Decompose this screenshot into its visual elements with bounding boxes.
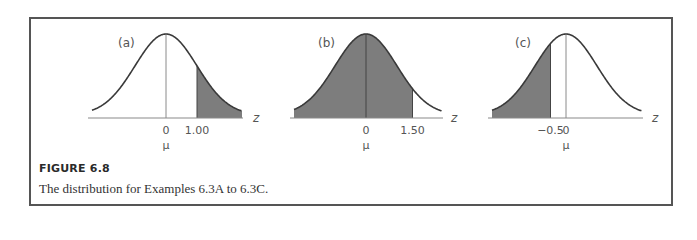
figure-caption: The distribution for Examples 6.3A to 6.… — [39, 181, 268, 197]
tick-label: −0.5 — [537, 124, 564, 137]
tick-label: 0 — [163, 124, 170, 137]
panel-c: z(c)−0.50μ — [488, 34, 659, 152]
axis-label-z: z — [252, 111, 260, 125]
shaded-area — [197, 66, 242, 118]
shaded-area — [294, 34, 413, 118]
mean-label-mu: μ — [363, 139, 370, 152]
panel-b: z(b)01.50μ — [290, 34, 458, 152]
panel-label: (b) — [318, 36, 335, 50]
panel-label: (c) — [515, 36, 531, 50]
figure-heading: FIGURE 6.8 — [39, 162, 110, 175]
panel-label: (a) — [118, 36, 135, 50]
tick-label: 1.50 — [400, 124, 425, 137]
axis-label-z: z — [651, 111, 659, 125]
axis-label-z: z — [450, 111, 458, 125]
tick-label: 0 — [363, 124, 370, 137]
tick-label: 0 — [563, 124, 570, 137]
mean-label-mu: μ — [163, 139, 170, 152]
tick-label: 1.00 — [185, 124, 210, 137]
panel-a: z(a)01.00μ — [88, 34, 260, 152]
mean-label-mu: μ — [563, 139, 570, 152]
